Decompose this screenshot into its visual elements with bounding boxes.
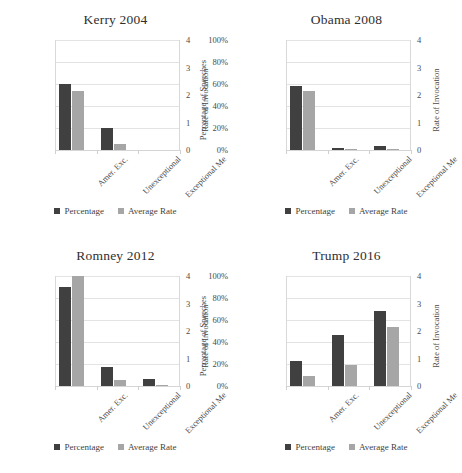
chart-grid: Kerry 20040%20%40%60%80%100%01234Percent… bbox=[0, 0, 462, 473]
bar-group bbox=[374, 40, 407, 150]
bar-average-rate bbox=[72, 276, 84, 386]
bar-average-rate bbox=[387, 327, 399, 386]
x-tick-label: Exceptional Me bbox=[183, 154, 228, 199]
bar-group bbox=[332, 276, 365, 386]
y-axis-title: Percentage of Speeches bbox=[198, 286, 208, 386]
bar-average-rate bbox=[345, 365, 357, 386]
y2-tick-label: 3 bbox=[186, 299, 190, 309]
bar-percentage bbox=[101, 128, 113, 150]
legend-swatch-average-rate bbox=[118, 208, 124, 214]
x-tick-label: Exceptional Me bbox=[414, 390, 459, 435]
legend-item-percentage[interactable]: Percentage bbox=[285, 206, 334, 216]
x-tick-label: Unexceptional bbox=[371, 390, 413, 432]
x-tick-label: Amer. Exc. bbox=[326, 154, 360, 188]
y2-tick-label: 2 bbox=[417, 90, 421, 100]
legend-swatch-average-rate bbox=[118, 444, 124, 450]
chart-panel-3: Romney 20120%20%40%60%80%100%01234Percen… bbox=[0, 236, 231, 473]
legend-item-percentage[interactable]: Percentage bbox=[54, 442, 103, 452]
x-tick-mark bbox=[411, 150, 412, 154]
legend-item-average-rate[interactable]: Average Rate bbox=[118, 442, 177, 452]
y-tick-label: 20% bbox=[212, 123, 228, 133]
chart-title: Kerry 2004 bbox=[0, 12, 231, 28]
y-tick-label: 100% bbox=[208, 35, 228, 45]
y-axis-ticks-right: 01234 bbox=[413, 276, 431, 386]
legend-label-percentage: Percentage bbox=[64, 206, 103, 216]
y-tick-label: 40% bbox=[212, 337, 228, 347]
y2-tick-label: 1 bbox=[417, 118, 421, 128]
legend-item-percentage[interactable]: Percentage bbox=[285, 442, 334, 452]
x-tick-label: Amer. Exc. bbox=[326, 390, 360, 424]
bar-group bbox=[374, 276, 407, 386]
y2-tick-label: 2 bbox=[186, 90, 190, 100]
chart-title: Trump 2016 bbox=[231, 248, 462, 264]
y2-axis-title: Rate of Invocation bbox=[431, 50, 441, 150]
bar-groups bbox=[286, 40, 411, 150]
y2-axis-title: Rate of Invocation bbox=[431, 286, 441, 386]
bar-percentage bbox=[143, 379, 155, 386]
bar-group bbox=[101, 40, 134, 150]
legend-swatch-percentage bbox=[285, 444, 291, 450]
chart-panel-2: Obama 20080%20%40%60%80%100%01234Percent… bbox=[231, 0, 462, 236]
legend-label-average-rate: Average Rate bbox=[359, 206, 408, 216]
y2-tick-label: 4 bbox=[186, 271, 190, 281]
chart-panel-4: Trump 20160%20%40%60%80%100%01234Percent… bbox=[231, 236, 462, 473]
y-tick-label: 20% bbox=[212, 359, 228, 369]
x-axis-labels: Amer. Exc.UnexceptionalExceptional Me bbox=[55, 388, 180, 440]
chart-title: Obama 2008 bbox=[231, 12, 462, 28]
y2-tick-label: 0 bbox=[186, 145, 190, 155]
y-tick-label: 100% bbox=[208, 271, 228, 281]
legend-swatch-average-rate bbox=[349, 444, 355, 450]
y-tick-label: 80% bbox=[212, 57, 228, 67]
y2-tick-label: 4 bbox=[417, 271, 421, 281]
x-axis-labels: Amer. Exc.UnexceptionalExceptional Me bbox=[286, 388, 411, 440]
plot-area bbox=[55, 40, 180, 150]
bar-percentage bbox=[332, 335, 344, 386]
bar-groups bbox=[55, 276, 180, 386]
x-tick-label: Amer. Exc. bbox=[95, 154, 129, 188]
legend-label-average-rate: Average Rate bbox=[359, 442, 408, 452]
legend-item-average-rate[interactable]: Average Rate bbox=[349, 442, 408, 452]
y2-tick-label: 1 bbox=[186, 118, 190, 128]
x-tick-mark bbox=[411, 386, 412, 390]
legend-swatch-percentage bbox=[54, 444, 60, 450]
y2-tick-label: 3 bbox=[417, 63, 421, 73]
bar-percentage bbox=[290, 361, 302, 386]
legend-swatch-percentage bbox=[285, 208, 291, 214]
x-tick-label: Unexceptional bbox=[371, 154, 413, 196]
bar-average-rate bbox=[72, 91, 84, 150]
legend-item-average-rate[interactable]: Average Rate bbox=[118, 206, 177, 216]
x-tick-label: Exceptional Me bbox=[414, 154, 459, 199]
y-tick-label: 0% bbox=[217, 381, 228, 391]
y2-tick-label: 4 bbox=[186, 35, 190, 45]
chart-legend: PercentageAverage Rate bbox=[0, 206, 231, 216]
legend-label-percentage: Percentage bbox=[295, 442, 334, 452]
bar-group bbox=[332, 40, 365, 150]
y-tick-label: 40% bbox=[212, 101, 228, 111]
bar-group bbox=[143, 276, 176, 386]
x-tick-label: Amer. Exc. bbox=[95, 390, 129, 424]
chart-legend: PercentageAverage Rate bbox=[231, 206, 462, 216]
y-axis-ticks-right: 01234 bbox=[413, 40, 431, 150]
legend-swatch-average-rate bbox=[349, 208, 355, 214]
bar-percentage bbox=[290, 86, 302, 150]
y2-tick-label: 3 bbox=[186, 63, 190, 73]
x-tick-mark bbox=[180, 150, 181, 154]
y2-tick-label: 0 bbox=[186, 381, 190, 391]
x-tick-label: Exceptional Me bbox=[183, 390, 228, 435]
bar-percentage bbox=[59, 84, 71, 150]
chart-panel-1: Kerry 20040%20%40%60%80%100%01234Percent… bbox=[0, 0, 231, 236]
chart-legend: PercentageAverage Rate bbox=[0, 442, 231, 452]
y2-tick-label: 1 bbox=[186, 354, 190, 364]
legend-label-percentage: Percentage bbox=[64, 442, 103, 452]
plot-area bbox=[286, 40, 411, 150]
legend-item-percentage[interactable]: Percentage bbox=[54, 206, 103, 216]
x-tick-mark bbox=[180, 386, 181, 390]
bar-percentage bbox=[59, 287, 71, 386]
bar-group bbox=[290, 40, 323, 150]
plot-area bbox=[55, 276, 180, 386]
bar-group bbox=[101, 276, 134, 386]
bar-groups bbox=[55, 40, 180, 150]
x-axis-labels: Amer. Exc.UnexceptionalExceptional Me bbox=[286, 152, 411, 204]
legend-item-average-rate[interactable]: Average Rate bbox=[349, 206, 408, 216]
plot-area bbox=[286, 276, 411, 386]
